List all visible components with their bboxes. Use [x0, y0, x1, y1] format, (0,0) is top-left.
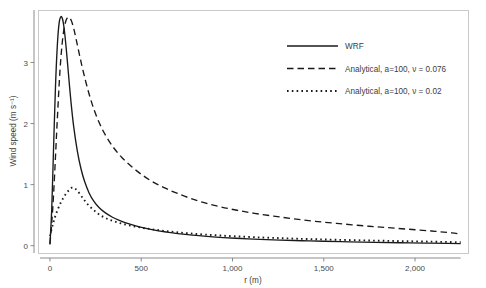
chart-background	[0, 0, 486, 288]
x-tick-label: 2,000	[405, 264, 426, 273]
y-axis-title: Wind speed (m s⁻¹)	[9, 95, 18, 166]
y-tick-label: 0	[24, 242, 29, 251]
wind-speed-line-chart: 05001,0001,5002,000 0123 WRFAnalytical, …	[0, 0, 486, 288]
y-tick-label: 2	[24, 120, 29, 129]
y-tick-label: 3	[24, 59, 29, 68]
legend-label: Analytical, a=100, ν = 0.076	[345, 65, 446, 74]
x-tick-label: 1,500	[314, 264, 335, 273]
x-tick-label: 1,000	[222, 264, 243, 273]
y-tick-label: 1	[24, 181, 29, 190]
chart-figure: 05001,0001,5002,000 0123 WRFAnalytical, …	[0, 0, 486, 288]
x-tick-label: 500	[135, 264, 149, 273]
legend-label: Analytical, a=100, ν = 0.02	[345, 87, 442, 96]
x-tick-label: 0	[48, 264, 53, 273]
x-axis-title: r (m)	[244, 276, 262, 285]
legend-label: WRF	[345, 42, 364, 51]
